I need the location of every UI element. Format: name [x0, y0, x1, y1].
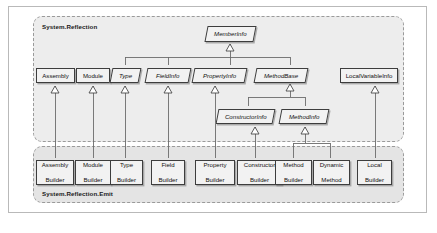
class-box-module[interactable]: Module [76, 68, 110, 83]
class-box-field-builder[interactable]: Field Builder [151, 160, 185, 185]
class-box-module-builder[interactable]: Module Builder [75, 160, 111, 185]
class-box-constructor-info[interactable]: ConstructorInfo [216, 109, 276, 124]
class-box-property-info[interactable]: PropertyInfo [192, 68, 248, 83]
class-box-member-info[interactable]: MemberInfo [204, 26, 256, 42]
class-diagram-figure: System.Reflection System.Reflection.Emit [0, 0, 437, 233]
class-box-method-info[interactable]: MethodInfo [279, 109, 330, 124]
class-box-local-variable-info[interactable]: LocalVariableInfo [340, 68, 398, 83]
class-box-assembly[interactable]: Assembly [36, 68, 75, 83]
class-box-assembly-builder[interactable]: Assembly Builder [36, 160, 74, 185]
class-box-field-info[interactable]: FieldInfo [145, 68, 192, 83]
class-box-property-builder[interactable]: Property Builder [195, 160, 235, 185]
class-box-method-base[interactable]: MethodBase [254, 68, 309, 83]
class-box-type[interactable]: Type [110, 68, 142, 83]
class-box-dynamic-method[interactable]: Dynamic Method [313, 160, 350, 185]
class-box-type-builder[interactable]: Type Builder [110, 160, 143, 185]
class-box-method-builder[interactable]: Method Builder [275, 160, 312, 185]
class-box-local-builder[interactable]: Local Builder [357, 160, 392, 185]
